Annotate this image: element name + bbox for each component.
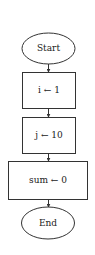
end-label: End — [21, 207, 75, 239]
assign-i-label: i ← 1 — [22, 72, 76, 109]
assign-sum-label: sum ← 0 — [8, 161, 88, 200]
start-label: Start — [22, 33, 75, 64]
assign-j-label: j ← 10 — [22, 117, 76, 154]
